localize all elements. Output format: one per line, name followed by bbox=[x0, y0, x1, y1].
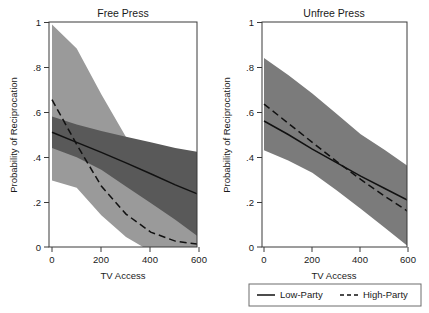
y-tick-label-0-right: 0 bbox=[249, 242, 254, 253]
x-tick-label-200: 200 bbox=[93, 254, 109, 265]
panel-title-right: Unfree Press bbox=[303, 7, 364, 19]
x-tick-label-0-right: 0 bbox=[261, 254, 266, 265]
x-tick-label-400-right: 400 bbox=[352, 254, 368, 265]
y-tick-label-04-right: .4 bbox=[246, 152, 254, 163]
x-tick-label-600: 600 bbox=[191, 254, 207, 265]
y-tick-label-08-right: .8 bbox=[246, 62, 254, 73]
legend-label-high-party: High-Party bbox=[363, 289, 408, 300]
x-axis-title-right: TV Access bbox=[312, 270, 357, 281]
panel-title-left: Free Press bbox=[97, 7, 148, 19]
y-tick-label-08: .8 bbox=[33, 62, 41, 73]
x-tick-label-400: 400 bbox=[142, 254, 158, 265]
y-tick-label-04: .4 bbox=[33, 152, 41, 163]
y-axis-title-left: Probability of Reciprocation bbox=[8, 77, 19, 193]
y-tick-label-0: 0 bbox=[36, 242, 41, 253]
x-tick-label-200-right: 200 bbox=[304, 254, 320, 265]
x-axis-title-left: TV Access bbox=[101, 270, 146, 281]
legend-label-low-party: Low-Party bbox=[280, 289, 323, 300]
y-axis-title-right: Probability of Reciprocation bbox=[221, 77, 232, 193]
x-tick-label-600-right: 600 bbox=[400, 254, 416, 265]
y-tick-label-02-right: .2 bbox=[246, 197, 254, 208]
y-tick-label-1-right: 1 bbox=[249, 17, 254, 28]
figure-container: Free Press Probability of Reciprocation bbox=[0, 0, 429, 313]
y-tick-label-06-right: .6 bbox=[246, 107, 254, 118]
y-tick-label-1: 1 bbox=[36, 17, 41, 28]
y-tick-label-06: .6 bbox=[33, 107, 41, 118]
y-tick-label-02: .2 bbox=[33, 197, 41, 208]
chart-svg: Free Press Probability of Reciprocation bbox=[0, 0, 429, 313]
x-tick-label-0: 0 bbox=[49, 254, 54, 265]
chart-legend: Low-Party High-Party bbox=[249, 284, 421, 306]
